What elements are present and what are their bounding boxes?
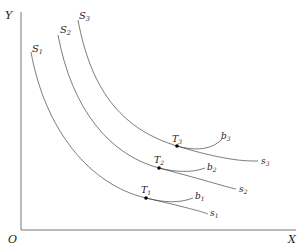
label-s2-top: S2	[60, 24, 71, 37]
label-s1-end: s1	[210, 208, 218, 219]
point-t3	[175, 144, 179, 148]
curve-b3	[177, 139, 222, 149]
label-t2: T2	[154, 154, 164, 166]
curve-b2	[159, 168, 205, 171]
point-t2	[157, 166, 161, 170]
label-s2-end: s2	[239, 184, 248, 195]
origin-label: O	[8, 233, 17, 246]
point-t1	[144, 196, 148, 200]
tangency-diagram: Y X O S1 S2 S3 s1 s2 s3 b1 b2 b3 T1 T2 T…	[0, 0, 306, 248]
label-s3-top: S3	[79, 10, 90, 23]
curve-s3	[78, 20, 258, 161]
label-t1: T1	[141, 184, 151, 196]
label-b2: b2	[207, 162, 217, 173]
label-s1-top: S1	[32, 43, 43, 56]
label-s3-end: s3	[261, 156, 270, 167]
x-axis-label: X	[287, 233, 297, 246]
label-t3: T3	[172, 133, 182, 145]
curve-b1	[146, 198, 193, 202]
curve-s1	[31, 52, 208, 214]
label-b1: b1	[195, 191, 205, 202]
label-b3: b3	[221, 131, 231, 142]
y-axis-label: Y	[5, 9, 14, 22]
